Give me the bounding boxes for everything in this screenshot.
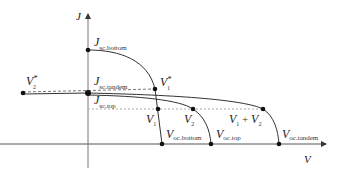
point-v2-star (21, 91, 26, 96)
point-v1-star (153, 87, 158, 92)
label-voc-tandem: Voc.tandem (282, 127, 319, 142)
tandem-jv-diagram: J V Jsc.bottom Jsc.tandem Jsc.top V* 2 V… (0, 0, 340, 170)
point-voc-tandem (277, 142, 282, 147)
point-voc-top (209, 142, 214, 147)
point-voc-bottom (160, 142, 165, 147)
y-axis-label: J (76, 10, 82, 22)
label-jsc-bottom: Jsc.bottom (94, 35, 127, 52)
x-axis-label: V (304, 153, 312, 165)
point-jsc-tandem (85, 90, 91, 96)
label-jsc-tandem: Jsc.tandem (94, 74, 128, 91)
label-v2: V2 (184, 112, 194, 127)
label-v1: V1 (146, 112, 156, 127)
point-v2 (191, 107, 196, 112)
label-v1-plus-v2: V1 + V2 (229, 112, 261, 127)
label-v2-star-sub: 2 (33, 84, 36, 90)
label-v1-star-sub: 1 (167, 85, 170, 91)
point-v1 (156, 107, 161, 112)
label-voc-top: Voc.top (216, 127, 241, 142)
label-voc-bottom: Voc.bottom (166, 127, 202, 142)
point-v1-plus-v2 (261, 107, 266, 112)
point-jsc-bottom (86, 48, 91, 53)
